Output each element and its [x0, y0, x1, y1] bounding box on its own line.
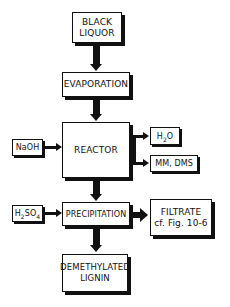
- filtrate-line2: cf. Fig. 10-6: [154, 218, 207, 229]
- h2so4-mid: SO: [25, 209, 37, 218]
- precipitation-label: PRECIPITATION: [66, 209, 127, 220]
- demethylated-lignin-line1: DEMETHYLATED: [60, 262, 130, 273]
- filtrate-box: FILTRATE cf. Fig. 10-6: [150, 199, 212, 236]
- arrow-head-right-icon: [143, 132, 149, 140]
- black-liquor-box: BLACK LIQUOR: [72, 12, 122, 43]
- demethylated-lignin-box: DEMETHYLATED LIGNIN: [62, 254, 128, 292]
- black-liquor-line2: LIQUOR: [79, 28, 114, 39]
- h2so4-subscript-2: 4: [36, 213, 40, 220]
- h2o-label: H2O: [157, 131, 173, 142]
- arrow-head-down-icon: [90, 64, 102, 71]
- filtrate-line1: FILTRATE: [161, 207, 201, 218]
- arrow-shaft-reactor-h2o-vertical: [133, 135, 136, 165]
- evaporation-box: EVAPORATION: [62, 72, 130, 97]
- demethylated-lignin-line2: LIGNIN: [80, 273, 110, 284]
- h2o-suffix: O: [167, 132, 173, 141]
- mm-dms-label: MM, DMS: [155, 158, 193, 169]
- arrow-head-right-icon: [140, 208, 148, 222]
- mm-dms-box: MM, DMS: [150, 155, 198, 172]
- h2so4-box: H2SO4: [12, 205, 43, 222]
- arrow-shaft-evap-reactor: [93, 100, 100, 115]
- arrow-head-right-icon: [143, 159, 149, 167]
- h2o-box: H2O: [150, 127, 180, 145]
- arrow-shaft-liquor-evap: [93, 46, 100, 64]
- arrow-head-down-icon: [90, 245, 102, 252]
- reactor-box: REACTOR: [62, 122, 130, 178]
- evaporation-label: EVAPORATION: [64, 79, 128, 90]
- naoh-box: NaOH: [12, 139, 43, 156]
- black-liquor-line1: BLACK: [82, 17, 112, 28]
- arrow-shaft-precip-lignin: [93, 229, 100, 246]
- precipitation-box: PRECIPITATION: [62, 202, 130, 226]
- h2so4-label: H2SO4: [15, 208, 41, 219]
- naoh-label: NaOH: [16, 142, 40, 153]
- arrow-head-down-icon: [90, 194, 102, 201]
- reactor-label: REACTOR: [74, 145, 118, 156]
- arrow-shaft-reactor-precip: [93, 181, 100, 195]
- arrow-head-down-icon: [90, 114, 102, 121]
- arrow-head-right-icon: [56, 143, 62, 151]
